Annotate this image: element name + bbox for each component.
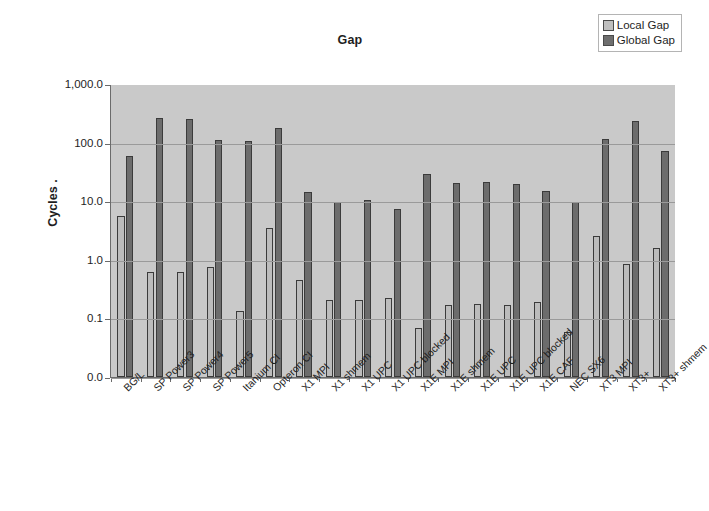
legend-swatch-icon-local-gap — [603, 20, 614, 31]
bar-global-gap[interactable] — [513, 184, 520, 377]
bar-global-gap[interactable] — [661, 151, 668, 377]
legend-item-local-gap[interactable]: Local Gap — [603, 18, 675, 33]
y-tick-mark — [105, 144, 110, 145]
y-tick-label: 100.0 — [41, 137, 103, 149]
gridline — [111, 144, 675, 145]
legend-swatch-icon-global-gap — [603, 35, 614, 46]
gridline — [111, 261, 675, 262]
chart-legend: Local Gap Global Gap — [598, 14, 682, 52]
bar-local-gap[interactable] — [117, 216, 124, 377]
y-tick-label: 1.0 — [41, 254, 103, 266]
bar-global-gap[interactable] — [275, 128, 282, 377]
chart-title: Gap — [0, 33, 700, 47]
gridline — [111, 202, 675, 203]
y-tick-label: 1,000.0 — [41, 78, 103, 90]
bar-global-gap[interactable] — [126, 156, 133, 377]
bar-global-gap[interactable] — [572, 202, 579, 377]
bar-global-gap[interactable] — [394, 209, 401, 377]
y-tick-mark — [105, 319, 110, 320]
bar-local-gap[interactable] — [653, 248, 660, 377]
bar-global-gap[interactable] — [602, 139, 609, 377]
bars-layer — [111, 85, 675, 377]
y-tick-mark — [105, 85, 110, 86]
gridline — [111, 319, 675, 320]
y-tick-label: 10.0 — [41, 195, 103, 207]
bar-global-gap[interactable] — [453, 183, 460, 377]
x-tick-mark — [111, 378, 112, 382]
y-tick-mark — [105, 202, 110, 203]
y-tick-mark — [105, 378, 110, 379]
legend-label-global-gap: Global Gap — [617, 33, 675, 48]
bar-global-gap[interactable] — [334, 202, 341, 377]
bar-local-gap[interactable] — [147, 272, 154, 377]
bar-global-gap[interactable] — [186, 119, 193, 377]
y-tick-label: 0.1 — [41, 312, 103, 324]
bar-global-gap[interactable] — [215, 140, 222, 377]
plot-area — [110, 85, 675, 378]
legend-label-local-gap: Local Gap — [617, 18, 669, 33]
y-tick-label: 0.0 — [41, 371, 103, 383]
legend-item-global-gap[interactable]: Global Gap — [603, 33, 675, 48]
bar-global-gap[interactable] — [245, 141, 252, 377]
bar-global-gap[interactable] — [632, 121, 639, 377]
y-tick-mark — [105, 261, 110, 262]
bar-global-gap[interactable] — [156, 118, 163, 377]
